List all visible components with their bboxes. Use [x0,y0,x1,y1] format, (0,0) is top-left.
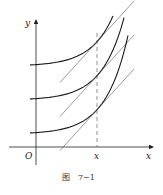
origin-label: O [25,151,33,161]
figure-caption: 图 7−1 [62,173,95,182]
integral-curve-1 [30,16,113,65]
y-axis-label: y [24,18,31,28]
x-marker-label: x [94,151,99,161]
integral-curve-2 [30,18,124,99]
integral-curves-figure: y x O x 图 7−1 [0,0,163,195]
x-axis-label: x [146,151,151,161]
